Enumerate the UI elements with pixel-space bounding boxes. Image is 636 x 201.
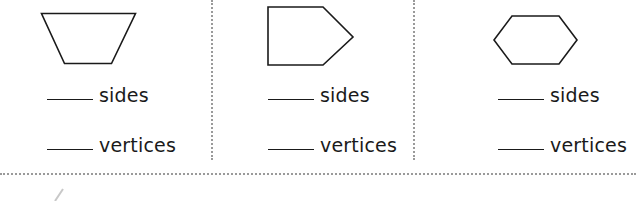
vertices-label: vertices <box>99 134 176 156</box>
vertices-row: vertices <box>268 134 397 156</box>
sides-label: sides <box>99 84 149 106</box>
sides-row: sides <box>498 84 600 106</box>
vertices-label: vertices <box>320 134 397 156</box>
sides-row: sides <box>268 84 370 106</box>
vertices-answer-blank[interactable] <box>47 149 93 150</box>
sides-answer-blank[interactable] <box>47 99 93 100</box>
vertices-row: vertices <box>47 134 176 156</box>
vertices-answer-blank[interactable] <box>268 149 314 150</box>
sides-label: sides <box>320 84 370 106</box>
shape-card-hexagon: sides vertices <box>414 0 636 163</box>
trapezoid-icon <box>40 12 140 68</box>
vertices-label: vertices <box>550 134 627 156</box>
vertices-row: vertices <box>498 134 627 156</box>
vertices-answer-blank[interactable] <box>498 149 544 150</box>
shape-card-pentagon: sides vertices <box>212 0 414 163</box>
decorative-stroke-icon <box>54 188 64 201</box>
pentagon-icon <box>266 5 356 67</box>
sides-row: sides <box>47 84 149 106</box>
shape-card-trapezoid: sides vertices <box>0 0 212 163</box>
sides-answer-blank[interactable] <box>498 99 544 100</box>
hexagon-icon <box>492 14 580 66</box>
section-divider <box>0 173 636 175</box>
sides-label: sides <box>550 84 600 106</box>
sides-answer-blank[interactable] <box>268 99 314 100</box>
